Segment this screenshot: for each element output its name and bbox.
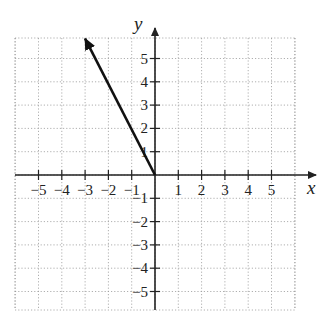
x-tick-label: −4 [54,182,70,198]
x-tick-label: 3 [221,182,229,198]
axes [15,28,316,310]
y-axis-label: y [132,13,143,34]
x-tick-label: −2 [100,182,116,198]
y-tick-label: −1 [132,190,148,206]
y-tick-label: 3 [141,97,149,113]
y-tick-label: −3 [132,237,148,253]
y-tick-label: 5 [141,51,149,67]
coordinate-plane: −5−4−3−2−112345−5−4−3−2−112345 x y [0,0,320,319]
x-tick-label: 4 [244,182,252,198]
x-tick-label: 5 [268,182,276,198]
x-axis-label: x [306,177,316,198]
x-tick-label: 1 [175,182,183,198]
x-tick-label: −5 [31,182,47,198]
y-tick-label: 4 [141,74,149,90]
y-tick-label: 2 [141,120,149,136]
y-tick-label: −4 [132,260,148,276]
y-tick-label: −5 [132,284,148,300]
y-tick-label: −2 [132,214,148,230]
x-tick-label: −3 [77,182,93,198]
x-tick-label: 2 [198,182,206,198]
